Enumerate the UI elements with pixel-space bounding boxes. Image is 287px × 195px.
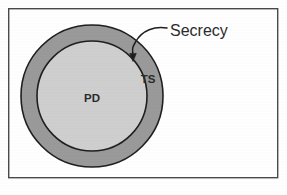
diagram-canvas: TS PD Secrecy (0, 0, 287, 195)
callout-label-secrecy: Secrecy (170, 22, 228, 39)
region-label-pd: PD (84, 92, 100, 104)
figure-container: TS PD Secrecy (0, 0, 287, 195)
region-label-ts: TS (141, 73, 156, 85)
